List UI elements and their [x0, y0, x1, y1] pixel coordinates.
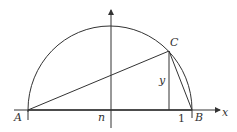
- chord-ac: [28, 51, 169, 110]
- label-n: n: [98, 111, 105, 124]
- label-b: B: [194, 111, 203, 124]
- label-a: A: [13, 111, 22, 124]
- label-x-axis: x: [222, 106, 229, 119]
- label-c: C: [170, 36, 179, 49]
- chord-cb: [169, 51, 192, 110]
- semicircle-arc: [28, 26, 192, 118]
- label-one: 1: [178, 112, 185, 125]
- label-y: y: [158, 74, 166, 87]
- semicircle-diagram: A B C y n 1 x: [0, 0, 237, 132]
